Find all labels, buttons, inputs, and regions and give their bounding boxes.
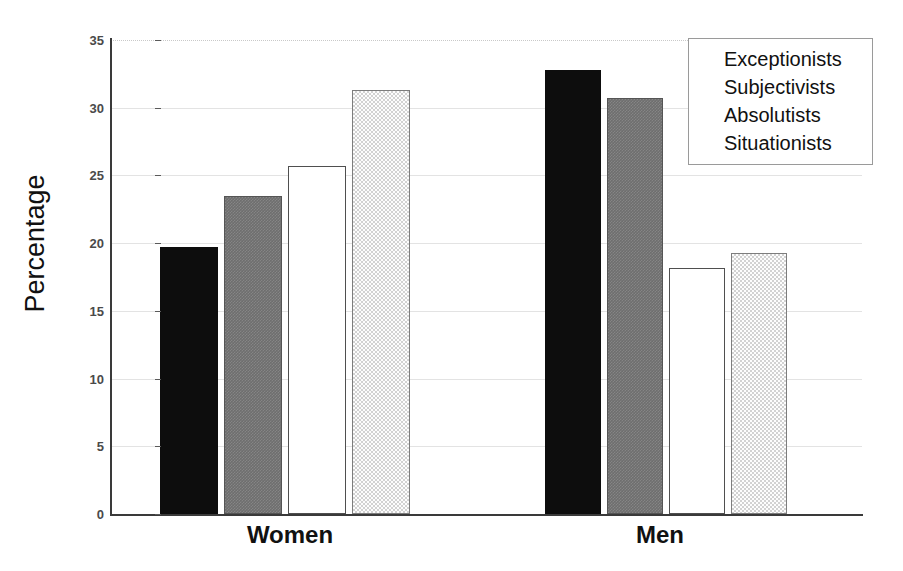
y-tick-mark-10 — [155, 379, 161, 380]
y-tick-mark-25 — [155, 175, 161, 176]
y-tick-label-20: 20 — [62, 236, 104, 251]
y-axis-ticks: 05101520253035 — [52, 0, 104, 571]
bar-women-situationists — [352, 90, 410, 514]
legend-item-situationists[interactable]: Situationists — [698, 129, 864, 157]
y-axis-title: Percentage — [20, 134, 51, 354]
bar-women-subjectivists — [224, 196, 282, 514]
y-tick-mark-30 — [155, 108, 161, 109]
legend-item-exceptionists[interactable]: Exceptionists — [698, 45, 864, 73]
bar-women-exceptionists — [160, 247, 218, 514]
legend-label-situationists: Situationists — [724, 133, 832, 153]
x-category-label-women: Women — [190, 521, 390, 549]
y-axis-line — [110, 38, 112, 516]
bar-women-absolutists — [288, 166, 346, 514]
y-tick-label-15: 15 — [62, 303, 104, 318]
bar-men-subjectivists — [607, 98, 663, 514]
legend-swatch-dotted-icon — [698, 134, 717, 153]
y-tick-label-10: 10 — [62, 371, 104, 386]
legend-label-absolutists: Absolutists — [724, 105, 821, 125]
y-tick-mark-15 — [155, 311, 161, 312]
legend-item-absolutists[interactable]: Absolutists — [698, 101, 864, 129]
y-tick-label-30: 30 — [62, 100, 104, 115]
y-tick-label-35: 35 — [62, 33, 104, 48]
y-tick-mark-35 — [155, 40, 161, 41]
x-axis-line — [110, 514, 863, 516]
x-category-label-men: Men — [560, 521, 760, 549]
legend-label-exceptionists: Exceptionists — [724, 49, 842, 69]
y-tick-mark-20 — [155, 243, 161, 244]
y-tick-mark-5 — [155, 446, 161, 447]
bar-chart: Percentage 05101520253035 WomenMen Excep… — [0, 0, 903, 571]
gridline-25 — [111, 175, 862, 176]
legend-swatch-white-icon — [698, 106, 717, 125]
legend-swatch-gray-icon — [698, 78, 717, 97]
y-tick-label-25: 25 — [62, 168, 104, 183]
y-tick-mark-0 — [155, 514, 161, 515]
y-tick-label-0: 0 — [62, 507, 104, 522]
legend-label-subjectivists: Subjectivists — [724, 77, 835, 97]
y-tick-label-5: 5 — [62, 439, 104, 454]
legend: ExceptionistsSubjectivistsAbsolutistsSit… — [688, 38, 873, 165]
legend-swatch-black-icon — [698, 50, 717, 69]
bar-men-situationists — [731, 253, 787, 514]
legend-item-subjectivists[interactable]: Subjectivists — [698, 73, 864, 101]
bar-men-exceptionists — [545, 70, 601, 514]
bar-men-absolutists — [669, 268, 725, 514]
